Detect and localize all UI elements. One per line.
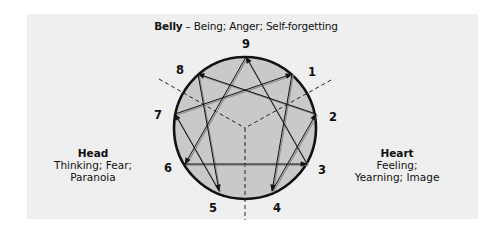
point-label-6: 6 — [164, 161, 172, 175]
heart-line-2: Yearning; Image — [347, 171, 447, 183]
point-label-7: 7 — [154, 108, 162, 122]
head-line-1: Thinking; Fear; — [43, 159, 143, 171]
heart-line-1: Feeling; — [347, 159, 447, 171]
point-label-1: 1 — [308, 65, 316, 79]
point-label-8: 8 — [176, 63, 184, 77]
belly-center-title: Belly – Being; Anger; Self-forgetting — [0, 20, 492, 32]
enneagram-figure — [0, 0, 503, 232]
point-label-5: 5 — [209, 201, 217, 215]
point-label-4: 4 — [273, 201, 281, 215]
point-label-9: 9 — [242, 37, 250, 51]
point-label-3: 3 — [318, 163, 326, 177]
heart-label: Heart — [347, 147, 447, 159]
belly-description: – Being; Anger; Self-forgetting — [182, 20, 337, 32]
head-center-text: Head Thinking; Fear; Paranoia — [43, 147, 143, 183]
heart-center-text: Heart Feeling; Yearning; Image — [347, 147, 447, 183]
point-label-2: 2 — [329, 110, 337, 124]
head-label: Head — [43, 147, 143, 159]
head-line-2: Paranoia — [43, 171, 143, 183]
belly-label: Belly — [154, 20, 182, 32]
